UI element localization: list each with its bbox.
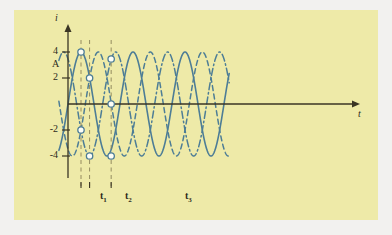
y-axis-label: i bbox=[55, 12, 58, 23]
waveform-plot bbox=[0, 0, 392, 235]
t2-sub: 2 bbox=[128, 196, 132, 204]
figure-container: i t A 4 2 -2 -4 t1 t2 t3 bbox=[0, 0, 392, 235]
t3-sub: 3 bbox=[188, 196, 192, 204]
marker-point bbox=[86, 75, 92, 81]
marker-point bbox=[78, 127, 84, 133]
y-tick-label-4: 4 bbox=[40, 45, 58, 56]
marker-point bbox=[78, 49, 84, 55]
y-tick-label-2: 2 bbox=[40, 71, 58, 82]
x-tick-label-t3: t3 bbox=[185, 190, 192, 204]
marker-point bbox=[108, 56, 114, 62]
x-tick-label-t1: t1 bbox=[100, 190, 107, 204]
y-tick-label-neg4: -4 bbox=[36, 149, 58, 160]
marker-point bbox=[108, 153, 114, 159]
t1-sub: 1 bbox=[103, 196, 107, 204]
marker-point bbox=[108, 101, 114, 107]
x-axis-ticks bbox=[81, 182, 111, 188]
y-tick-label-neg2: -2 bbox=[36, 123, 58, 134]
y-axis-arrow bbox=[65, 24, 72, 32]
x-tick-label-t2: t2 bbox=[125, 190, 132, 204]
x-axis-arrow bbox=[352, 101, 360, 108]
marker-point bbox=[86, 153, 92, 159]
y-unit-label: A bbox=[52, 58, 59, 69]
x-axis-label: t bbox=[358, 108, 361, 119]
